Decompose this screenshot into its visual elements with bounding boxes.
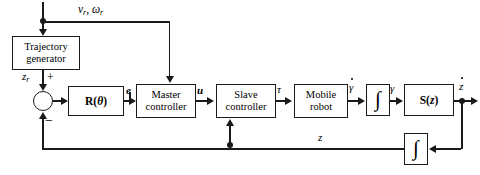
mobile-robot-block: Mobile robot	[294, 84, 348, 118]
output-z-dot-label: z	[459, 80, 463, 92]
master-controller-label-line1: Master	[151, 89, 180, 101]
trajectory-generator-label-line1: Trajectory	[24, 41, 67, 53]
integrator-to-sz-arrow	[396, 97, 403, 105]
slave-to-robot-arrow	[285, 97, 292, 105]
forward-integrator-symbol: ∫	[375, 89, 381, 110]
master-to-slave-arrow	[207, 97, 214, 105]
reference-to-trajectory-arrow	[39, 29, 47, 36]
output-to-feedback-integrator-line	[461, 100, 463, 149]
outer-feedback-line	[42, 148, 404, 150]
slave-controller-block: Slave controller	[216, 84, 276, 118]
master-output-label: u	[197, 84, 203, 96]
mobile-robot-label-line1: Mobile	[306, 89, 336, 101]
outer-feedback-arrow	[39, 112, 47, 119]
transfer-sz-label: S(z)	[420, 94, 439, 107]
error-arrow	[129, 97, 136, 105]
feedback-integrator-input-arrow	[429, 145, 436, 153]
error-label: e	[126, 84, 131, 96]
trajectory-output-line	[42, 70, 44, 84]
reference-inputs-label: vr, ωr	[78, 3, 103, 17]
gamma-dot-label: γ	[349, 81, 353, 93]
master-controller-block: Master controller	[136, 84, 196, 118]
mobile-robot-label-line2: robot	[310, 101, 332, 113]
forward-integrator-block: ∫	[366, 84, 390, 116]
trajectory-generator-block: Trajectory generator	[12, 36, 80, 70]
torque-label: τ	[277, 83, 281, 95]
feedback-integrator-block: ∫	[404, 133, 428, 165]
trajectory-output-arrow	[39, 84, 47, 91]
summing-junction	[33, 91, 53, 111]
slave-feedback-arrow	[226, 119, 234, 126]
slave-controller-label-line1: Slave	[234, 89, 257, 101]
reference-to-master-line	[169, 21, 171, 76]
gamma-label: γ	[390, 82, 394, 94]
feedback-integrator-symbol: ∫	[413, 138, 419, 159]
transfer-sz-block: S(z)	[404, 84, 454, 116]
reference-to-master-arrow	[166, 76, 174, 83]
z-feedback-label: z	[318, 131, 322, 143]
sum-to-rotation-arrow	[61, 97, 68, 105]
robot-to-integrator-arrow	[358, 97, 365, 105]
trajectory-generator-label-line2: generator	[26, 53, 66, 65]
output-arrow	[471, 97, 478, 105]
slave-controller-label-line2: controller	[226, 101, 267, 113]
summing-plus-sign: +	[47, 71, 54, 83]
rotation-matrix-block: R(θ)	[68, 86, 124, 116]
feedback-integrator-input-line	[436, 148, 461, 150]
master-controller-label-line2: controller	[146, 101, 187, 113]
reference-bus-line	[42, 21, 170, 23]
outer-feedback-riser	[42, 119, 44, 149]
trajectory-output-label: zr	[22, 70, 29, 84]
rotation-matrix-label: R(θ)	[85, 95, 107, 108]
control-block-diagram: vr, ωr Trajectory generator zr + − R(θ) …	[0, 0, 480, 175]
